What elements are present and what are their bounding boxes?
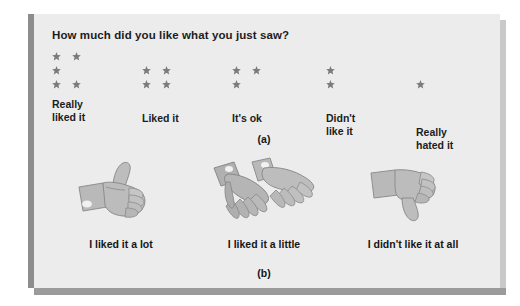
panel-b-caption: (b) bbox=[28, 267, 500, 279]
rating-option-label: It's ok bbox=[232, 112, 324, 125]
star-icon bbox=[72, 52, 81, 61]
panel-a-caption: (a) bbox=[28, 133, 500, 145]
star-icon bbox=[72, 80, 81, 89]
rating-option-liked-it[interactable]: Liked it bbox=[142, 52, 234, 125]
rating-option-label: Liked it bbox=[142, 112, 234, 125]
star-row bbox=[232, 66, 324, 80]
star-row bbox=[142, 66, 234, 80]
panel-b-hand-gestures: I liked it a lot bbox=[28, 154, 500, 288]
rating-option-really-liked-it[interactable]: Really liked it bbox=[52, 52, 144, 123]
gesture-option-didnt-like-at-all[interactable]: I didn't like it at all bbox=[338, 154, 488, 250]
star-icon bbox=[52, 80, 61, 89]
star-icon bbox=[326, 66, 335, 75]
star-icon bbox=[326, 80, 335, 89]
star-icon bbox=[142, 66, 151, 75]
star-row bbox=[52, 80, 144, 94]
star-icon bbox=[416, 80, 425, 89]
star-stack bbox=[142, 52, 234, 112]
star-row bbox=[416, 80, 508, 94]
star-icon bbox=[232, 80, 241, 89]
gesture-option-label: I didn't like it at all bbox=[338, 238, 488, 250]
thumbs-down-icon bbox=[338, 154, 488, 232]
gesture-option-label: I liked it a little bbox=[189, 238, 339, 250]
star-row bbox=[326, 80, 418, 94]
survey-question: How much did you like what you just saw? bbox=[52, 29, 289, 41]
star-icon bbox=[142, 80, 151, 89]
star-row bbox=[326, 66, 418, 80]
star-stack bbox=[416, 52, 508, 126]
star-row bbox=[232, 80, 324, 94]
rating-option-label: Really liked it bbox=[52, 98, 144, 123]
star-icon bbox=[52, 66, 61, 75]
star-stack bbox=[52, 52, 144, 98]
star-icon bbox=[162, 66, 171, 75]
star-icon bbox=[162, 80, 171, 89]
panel-a-star-rating-scale: How much did you like what you just saw?… bbox=[28, 14, 500, 154]
star-icon bbox=[52, 52, 61, 61]
rating-option-its-ok[interactable]: It's ok bbox=[232, 52, 324, 125]
star-stack bbox=[232, 52, 324, 112]
gesture-option-label: I liked it a lot bbox=[46, 238, 196, 250]
star-row bbox=[52, 52, 144, 66]
figure-card: How much did you like what you just saw?… bbox=[28, 14, 500, 288]
rating-option-didnt-like-it[interactable]: Didn't like it bbox=[326, 52, 418, 137]
star-row bbox=[52, 66, 144, 80]
thumbs-up-icon bbox=[46, 154, 196, 232]
card-shadow-bottom bbox=[34, 288, 506, 295]
gesture-option-liked-a-lot[interactable]: I liked it a lot bbox=[46, 154, 196, 250]
page-left-rail bbox=[28, 14, 34, 288]
star-icon bbox=[252, 66, 261, 75]
flat-hands-icon bbox=[189, 154, 339, 232]
star-stack bbox=[326, 52, 418, 112]
gesture-option-liked-a-little[interactable]: I liked it a little bbox=[189, 154, 339, 250]
star-icon bbox=[232, 66, 241, 75]
star-row bbox=[142, 80, 234, 94]
